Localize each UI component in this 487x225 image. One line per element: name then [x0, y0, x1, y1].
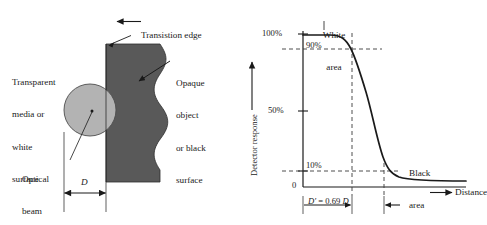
white-area-label: White area	[311, 8, 357, 95]
y-axis-title: Detector response	[249, 114, 259, 176]
rise-distance-label: D′ = 0.69 D	[308, 196, 349, 206]
transition-edge-label: Transistion edge	[141, 30, 202, 41]
y-tick-label-50: 50%	[268, 105, 284, 115]
rise-distance-symbol: D′	[308, 196, 316, 206]
x-axis-title: Distance	[455, 187, 487, 198]
black-area-label: Black area	[409, 146, 430, 225]
chart-axes	[252, 31, 466, 193]
y-tick-label-100: 100%	[262, 28, 282, 38]
optical-beam-shape	[64, 84, 116, 136]
optical-beam-label: Optical beam	[22, 152, 49, 225]
opaque-object-label: Opaque object or black surface	[176, 56, 206, 208]
rise-distance-coefficient: 0.69	[325, 196, 340, 206]
reference-label-10: 10%	[306, 160, 322, 170]
y-tick-label-0: 0	[292, 180, 296, 190]
dimension-D-label: D	[81, 177, 88, 188]
rise-distance-unit: D	[342, 196, 348, 206]
figure-root: Transparent media or white surface Trans…	[0, 0, 487, 225]
